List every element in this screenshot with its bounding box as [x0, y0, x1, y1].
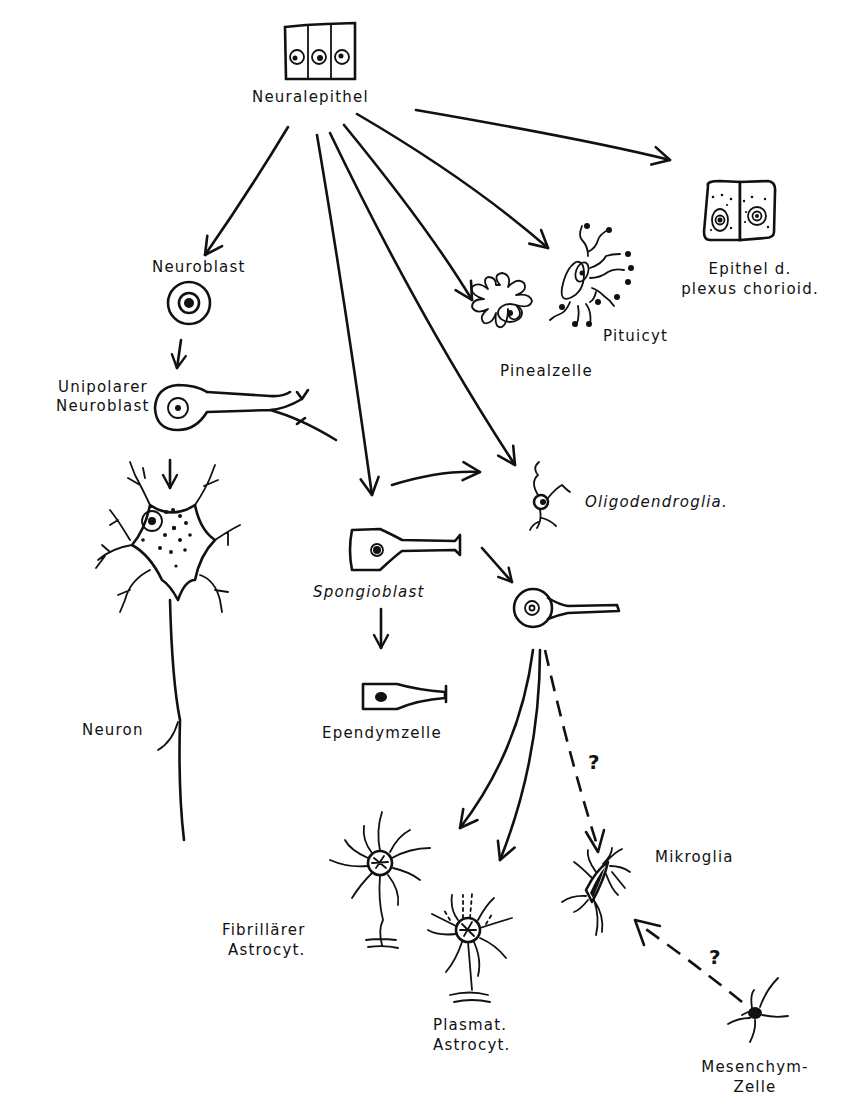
label-neuroblast: Neuroblast [152, 258, 246, 277]
unipolar-neuroblast-cell-icon [155, 385, 336, 440]
label-pinealzelle: Pinealzelle [500, 362, 593, 381]
label-pituicyt: Pituicyt [603, 327, 668, 346]
uncertain-mark-mesenchym-mikroglia: ? [709, 945, 721, 969]
label-epithel-line2: plexus chorioid. [680, 280, 820, 299]
protoplasmic-astrocyte-cell-icon [428, 894, 512, 1002]
label-unipolarer-line1: Unipolarer [58, 378, 148, 397]
label-mesenchym-line2: Zelle [700, 1078, 810, 1097]
label-fibrillaerer-line1: Fibrillärer [222, 921, 306, 940]
epithel-plexus-cell-icon [704, 181, 775, 240]
label-neuron: Neuron [82, 721, 144, 740]
spongioblast-cell-icon [350, 472, 512, 648]
label-neuralepithel: Neuralepithel [252, 88, 369, 107]
neuron-cell-icon [96, 460, 240, 840]
label-spongioblast: Spongioblast [313, 583, 425, 602]
pinealzelle-cell-icon [472, 273, 532, 327]
label-unipolarer-line2: Neuroblast [56, 397, 150, 416]
astroblast-cell-icon [514, 589, 619, 627]
label-ependymzelle: Ependymzelle [322, 724, 442, 743]
neuroblast-cell-icon [168, 282, 210, 368]
microglia-cell-icon [562, 848, 630, 935]
mesenchymal-cell-icon [728, 978, 788, 1042]
oligodendroglia-cell-icon [530, 462, 570, 530]
label-epithel-line1: Epithel d. [690, 260, 810, 279]
uncertain-mark-astroblast-mikroglia: ? [588, 750, 600, 774]
ependymzelle-cell-icon [363, 684, 446, 709]
label-mikroglia: Mikroglia [655, 848, 734, 867]
label-plasmat-line2: Astrocyt. [433, 1036, 511, 1055]
label-fibrillaerer-line2: Astrocyt. [228, 941, 306, 960]
arrows-from-astroblast [460, 650, 604, 860]
label-mesenchym-line1: Mesenchym- [700, 1058, 810, 1077]
pituicyt-cell-icon [550, 223, 634, 327]
neuralepithel-cell-icon [285, 23, 355, 79]
fibrillar-astrocyte-cell-icon [330, 812, 430, 948]
label-oligodendroglia: Oligodendroglia. [585, 493, 728, 512]
label-plasmat-line1: Plasmat. [433, 1016, 507, 1035]
mesenchym-to-microglia-arrow [635, 920, 742, 1002]
